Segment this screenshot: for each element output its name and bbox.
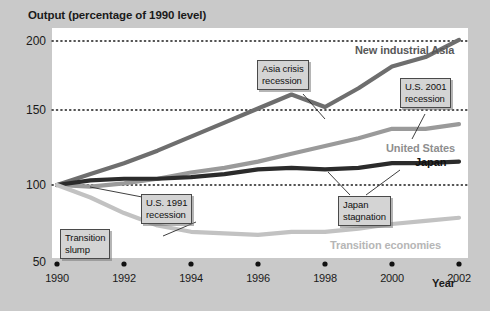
x-tick-dot-1998 (322, 261, 327, 266)
y-tick-label-200: 200 (18, 34, 46, 48)
x-tick-label-1996: 1996 (246, 272, 270, 284)
y-tick-label-150: 150 (18, 103, 46, 117)
annotation-us-1991-line2: recession (146, 209, 187, 221)
annotation-asia-crisis-recession: Asia crisis recession (257, 60, 309, 90)
annotation-japan-stagnation-line2: stagnation (343, 211, 386, 223)
annotation-japan-stagnation-line1: Japan (343, 199, 386, 211)
x-tick-label-1992: 1992 (112, 272, 136, 284)
series-label-japan: Japan (415, 156, 446, 168)
series-label-united-states: United States (386, 142, 455, 154)
y-tick-label-100: 100 (18, 178, 46, 192)
x-tick-label-1990: 1990 (45, 272, 69, 284)
annotation-us-2001-line1: U.S. 2001 (405, 81, 446, 93)
series-label-new-industrial-asia: New industrial Asia (355, 44, 454, 56)
x-tick-label-2000: 2000 (380, 272, 404, 284)
source-caption-strip (0, 303, 490, 311)
x-tick-marks (54, 261, 461, 266)
x-tick-dot-2000 (389, 261, 394, 266)
x-tick-dot-1994 (188, 261, 193, 266)
annotation-us-1991-line1: U.S. 1991 (146, 197, 187, 209)
annotation-asia-crisis-line2: recession (262, 75, 304, 87)
y-axis-title: Output (percentage of 1990 level) (28, 9, 206, 21)
annotation-us-2001-line2: recession (405, 93, 446, 105)
x-tick-dot-2002 (456, 261, 461, 266)
y-tick-label-50: 50 (18, 255, 46, 269)
annotation-transition-slump-line2: slump (65, 244, 105, 256)
x-tick-label-2002: 2002 (447, 272, 471, 284)
x-tick-label-1994: 1994 (179, 272, 203, 284)
annotation-us-2001-recession: U.S. 2001 recession (400, 78, 451, 108)
annotation-transition-slump: Transition slump (60, 229, 110, 259)
series-label-transition-economies: Transition economies (330, 239, 441, 251)
figure-chart: Output (percentage of 1990 level) Year 2… (0, 0, 490, 311)
x-tick-dot-1992 (121, 261, 126, 266)
annotation-japan-stagnation: Japan stagnation (338, 196, 391, 226)
annotation-asia-crisis-line1: Asia crisis (262, 63, 304, 75)
x-tick-dot-1990 (54, 261, 59, 266)
x-tick-label-1998: 1998 (313, 272, 337, 284)
annotation-us-1991-recession: U.S. 1991 recession (141, 194, 192, 224)
x-tick-dot-1996 (255, 261, 260, 266)
annotation-transition-slump-line1: Transition (65, 232, 105, 244)
